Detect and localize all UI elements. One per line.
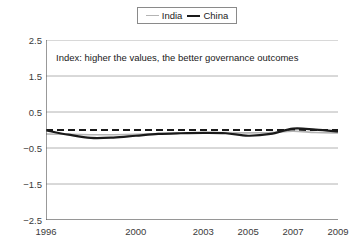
legend-swatch-china-icon bbox=[187, 15, 200, 17]
y-axis-tick-labels: 2.51.50.5−0.5−1.5−2.5 bbox=[0, 0, 42, 252]
plot-area bbox=[46, 40, 338, 220]
y-tick-label--1.5: −1.5 bbox=[2, 179, 42, 190]
x-tick-label-2003: 2003 bbox=[193, 226, 214, 237]
x-tick-label-2005: 2005 bbox=[238, 226, 259, 237]
y-tick-label--0.5: −0.5 bbox=[2, 143, 42, 154]
x-tick-label-2009: 2009 bbox=[327, 226, 348, 237]
x-tick-label-1996: 1996 bbox=[35, 226, 56, 237]
legend-label-india: India bbox=[162, 11, 183, 21]
legend-swatch-india-icon bbox=[146, 15, 159, 16]
y-tick-label-2.5: 2.5 bbox=[2, 35, 42, 46]
y-tick-label-1.5: 1.5 bbox=[2, 71, 42, 82]
plot-annotation: Index: higher the values, the better gov… bbox=[56, 52, 298, 63]
x-tick-label-2000: 2000 bbox=[125, 226, 146, 237]
chart-legend: India China bbox=[137, 7, 237, 24]
legend-entry-china: China bbox=[187, 11, 228, 21]
y-tick-label--2.5: −2.5 bbox=[2, 215, 42, 226]
y-tick-label-0.5: 0.5 bbox=[2, 107, 42, 118]
legend-label-china: China bbox=[203, 11, 228, 21]
chart-figure: India China 2.51.50.5−0.5−1.5−2.5 Index:… bbox=[0, 0, 349, 252]
x-tick-label-2007: 2007 bbox=[282, 226, 303, 237]
chart-canvas bbox=[46, 40, 338, 220]
legend-entry-india: India bbox=[146, 11, 183, 21]
